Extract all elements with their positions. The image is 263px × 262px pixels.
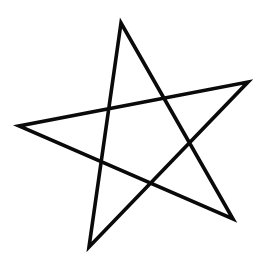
star-icon xyxy=(19,23,248,247)
star-figure xyxy=(0,0,263,262)
drawing-canvas xyxy=(0,0,263,262)
